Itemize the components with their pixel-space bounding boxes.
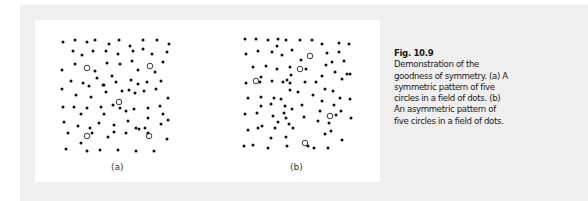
caption-line: An asymmetric pattern of	[394, 104, 496, 114]
dot	[72, 50, 75, 53]
dot	[303, 116, 306, 119]
dot	[138, 128, 141, 131]
dot	[74, 39, 77, 42]
open-circle	[116, 99, 122, 105]
dot	[271, 51, 274, 54]
dot	[245, 53, 248, 56]
dot	[107, 136, 110, 139]
dot	[348, 43, 351, 46]
dot	[245, 82, 248, 85]
dot	[265, 65, 268, 68]
dot	[261, 125, 264, 128]
dot	[70, 80, 73, 83]
dot	[289, 82, 292, 85]
dot	[167, 97, 170, 100]
dot	[162, 61, 165, 64]
dot	[103, 113, 106, 116]
dot	[108, 43, 111, 46]
dot	[280, 98, 283, 101]
dot	[260, 105, 263, 108]
dot	[319, 110, 322, 113]
dot	[312, 94, 315, 97]
dot	[282, 81, 285, 84]
dot	[315, 81, 318, 84]
dot	[160, 123, 163, 126]
dot	[135, 150, 138, 153]
dot	[125, 110, 128, 113]
dot	[260, 96, 263, 99]
dot	[127, 120, 130, 123]
dot	[257, 127, 260, 130]
dot	[67, 132, 70, 135]
dot	[125, 132, 128, 135]
dot	[102, 84, 105, 87]
dot	[106, 62, 109, 65]
dot	[153, 150, 156, 153]
dot	[130, 79, 133, 82]
dot	[277, 38, 280, 41]
dot	[132, 50, 135, 53]
dot	[334, 71, 337, 74]
dot	[328, 122, 331, 125]
panel-a	[61, 39, 171, 153]
dot	[281, 54, 284, 57]
dot	[142, 39, 145, 42]
dot	[276, 45, 279, 48]
dot	[299, 39, 302, 42]
dot	[290, 74, 293, 77]
dot	[113, 131, 116, 134]
dot	[61, 69, 64, 72]
dot	[349, 73, 352, 76]
dot	[349, 98, 352, 101]
dot	[75, 94, 78, 97]
dot	[92, 50, 95, 53]
dot	[156, 39, 159, 42]
dot	[321, 75, 324, 78]
dot	[77, 125, 80, 128]
dot	[166, 51, 169, 54]
dot	[99, 149, 102, 152]
dot	[133, 108, 136, 111]
dot	[98, 122, 101, 125]
dot	[289, 66, 292, 69]
dot	[291, 108, 294, 111]
dot	[94, 39, 97, 42]
dot	[65, 148, 68, 151]
dot	[300, 59, 303, 62]
dot	[333, 104, 336, 107]
dot	[321, 100, 324, 103]
dot	[350, 117, 353, 120]
dot	[252, 144, 255, 147]
open-circle	[297, 66, 303, 72]
open-circle	[307, 53, 313, 59]
dot	[86, 150, 89, 153]
dot	[341, 78, 344, 81]
dot	[286, 79, 289, 82]
dot	[321, 43, 324, 46]
dot	[86, 41, 89, 44]
dot	[166, 138, 169, 141]
dot	[168, 43, 171, 46]
caption-line: five circles in a field of dots.	[394, 116, 504, 126]
open-circle	[84, 65, 90, 71]
dot	[105, 91, 108, 94]
dot	[270, 103, 273, 106]
dot	[118, 39, 121, 42]
panel-b	[243, 38, 353, 150]
dot	[338, 51, 341, 54]
dot	[73, 106, 76, 109]
panel-label-a: (a)	[111, 162, 124, 172]
dot	[332, 90, 335, 93]
dot	[100, 106, 103, 109]
dot	[96, 77, 99, 80]
dot	[283, 112, 286, 115]
dot	[111, 75, 114, 78]
dot	[285, 117, 288, 120]
dot	[270, 137, 273, 140]
dot	[62, 41, 65, 44]
figure-caption: Fig. 10.9 Demonstration of the goodness …	[394, 48, 584, 127]
dot	[324, 88, 327, 91]
open-circle	[147, 63, 153, 69]
dot	[142, 48, 145, 51]
open-circle	[327, 113, 333, 119]
